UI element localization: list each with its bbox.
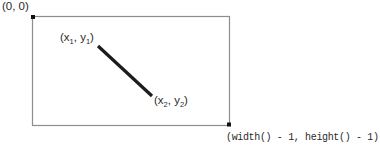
point2-text: (x xyxy=(154,94,164,106)
point1-close-text: ) xyxy=(90,31,94,43)
point2-label: (x2, y2) xyxy=(154,94,188,111)
point1-mid-text: , y xyxy=(74,31,86,43)
drawn-line xyxy=(98,46,152,96)
coordinate-system-diagram: (0, 0) (x1, y1) (x2, y2) (width() - 1, h… xyxy=(0,0,380,149)
origin-point-marker xyxy=(31,15,35,19)
diagram-shapes xyxy=(0,0,380,149)
bottom-right-label: (width() - 1, height() - 1) xyxy=(226,131,379,145)
origin-label: (0, 0) xyxy=(2,0,29,13)
point1-label: (x1, y1) xyxy=(60,31,94,48)
point2-mid-text: , y xyxy=(168,94,180,106)
point1-text: (x xyxy=(60,31,70,43)
bottom-right-point-marker xyxy=(227,123,231,127)
point2-close-text: ) xyxy=(184,94,188,106)
